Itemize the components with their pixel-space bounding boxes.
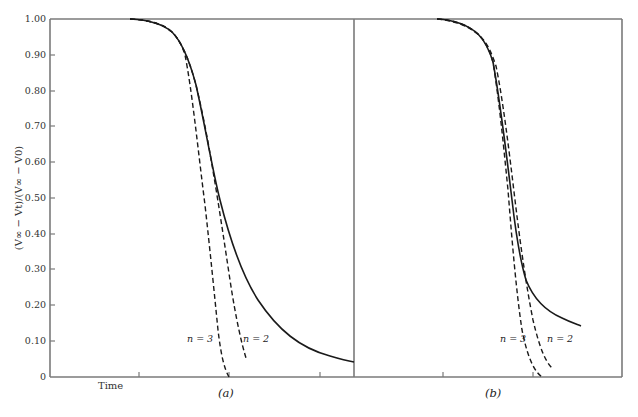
ytick-label: 0.30 xyxy=(25,263,46,274)
panel-a-curves xyxy=(130,19,354,377)
ytick-label: 0.60 xyxy=(25,156,46,167)
ytick-label: 0.10 xyxy=(25,335,46,346)
y-axis-title: (V∞ − Vt)/(V∞ − V0) xyxy=(13,146,24,250)
ytick-label: 0 xyxy=(40,371,46,382)
plot-frame xyxy=(50,19,622,377)
ytick-label: 0.70 xyxy=(25,120,46,131)
panel-label-a: (a) xyxy=(218,386,234,400)
panel-b-n2-label: n = 2 xyxy=(547,333,573,344)
panel-a-n2-curve xyxy=(130,19,246,358)
ytick-label: 0.80 xyxy=(25,85,46,96)
panel-a-n2-label: n = 2 xyxy=(243,333,269,344)
ytick-label: 1.00 xyxy=(25,13,46,24)
panel-b-solid-curve xyxy=(437,19,581,326)
panel-a-n3-label: n = 3 xyxy=(187,333,213,344)
ytick-label: 0.50 xyxy=(25,192,46,203)
x-axis-title: Time xyxy=(98,380,123,391)
ytick-label: 0.40 xyxy=(25,228,46,239)
panel-b-n3-curve xyxy=(437,19,542,377)
panel-b-n3-label: n = 3 xyxy=(500,333,526,344)
chart-figure: 0 0.10 0.20 0.30 0.40 0.50 0.60 0.70 0.8… xyxy=(0,0,638,417)
panel-b-curves xyxy=(437,19,581,377)
panel-a-n3-curve xyxy=(130,19,229,377)
ytick-label: 0.20 xyxy=(25,299,46,310)
panel-a-solid-curve xyxy=(130,19,354,362)
panel-label-b: (b) xyxy=(485,386,501,400)
ytick-label: 0.90 xyxy=(25,49,46,60)
y-tick-labels: 0 0.10 0.20 0.30 0.40 0.50 0.60 0.70 0.8… xyxy=(25,13,46,382)
